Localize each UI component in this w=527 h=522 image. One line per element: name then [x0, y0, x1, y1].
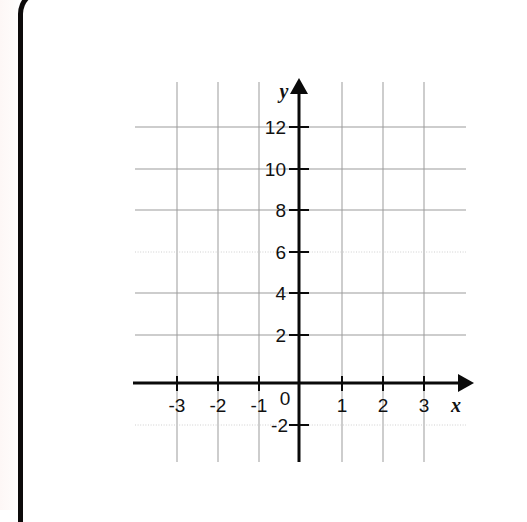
- x-tick-label-minus2: -2: [210, 395, 227, 416]
- origin-label: 0: [280, 388, 291, 409]
- y-axis-arrowhead: [290, 78, 308, 94]
- y-axis-name-label: y: [278, 80, 289, 103]
- x-axis-name-label: x: [450, 394, 461, 416]
- x-tick-label-plus3: 3: [419, 395, 430, 416]
- y-tick-label-6: 6: [275, 242, 286, 263]
- x-axis-arrowhead: [458, 374, 474, 392]
- y-tick-label-2: 2: [275, 325, 286, 346]
- y-tick-label-8: 8: [275, 200, 286, 221]
- y-tick-label-12: 12: [265, 117, 286, 138]
- x-tick-label-plus2: 2: [378, 395, 389, 416]
- y-tick-label-10: 10: [265, 159, 286, 180]
- x-tick-label-minus1: -1: [251, 395, 268, 416]
- x-tick-label-plus1: 1: [337, 395, 348, 416]
- x-tick-label-minus3: -3: [169, 395, 186, 416]
- y-tick-label-4: 4: [275, 283, 286, 304]
- y-tick-label-minus2: -2: [271, 415, 288, 436]
